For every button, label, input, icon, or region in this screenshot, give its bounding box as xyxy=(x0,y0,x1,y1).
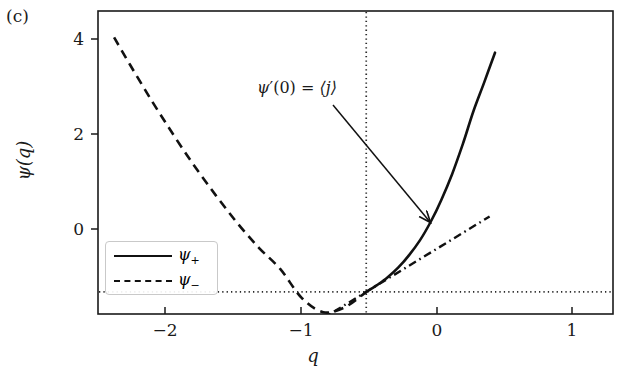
y-axis-label: ψ(q) xyxy=(13,116,34,206)
chart-plot-area xyxy=(0,0,626,374)
ytick-label-0: 0 xyxy=(58,219,84,239)
legend-sample-dashed xyxy=(114,280,172,282)
legend-psi-sub-0: + xyxy=(191,254,200,267)
legend-psi-base-0: ψ xyxy=(178,245,191,264)
figure-panel-c: (c) xyxy=(0,0,626,374)
legend-label-psi-minus: ψ− xyxy=(178,270,200,292)
annotation-expectation: ⟨j⟩ xyxy=(319,78,336,97)
legend-sample-solid xyxy=(114,255,172,257)
legend-entry-psi-plus: ψ+ xyxy=(106,242,219,269)
xtick-label--2: −2 xyxy=(147,320,183,340)
xtick-label-0: 0 xyxy=(419,320,455,340)
curve-psi-plus xyxy=(366,53,495,292)
legend-entry-psi-minus: ψ− xyxy=(106,267,219,294)
ytick-label-4: 4 xyxy=(58,29,84,49)
legend-psi-sub-1: − xyxy=(191,279,200,292)
annotation-text: ψ′(0) = ⟨j⟩ xyxy=(257,78,337,97)
annotation-arrow xyxy=(333,105,430,222)
annotation-arg: (0) xyxy=(273,78,296,97)
xtick-label--1: −1 xyxy=(283,320,319,340)
xtick-label-1: 1 xyxy=(554,320,590,340)
legend: ψ+ ψ− xyxy=(105,241,218,295)
legend-label-psi-plus: ψ+ xyxy=(178,245,200,267)
annotation-equals: = xyxy=(296,78,320,97)
ytick-label-2: 2 xyxy=(58,124,84,144)
legend-psi-base-1: ψ xyxy=(178,270,191,289)
x-axis-label: q xyxy=(0,345,626,366)
annotation-psi: ψ xyxy=(257,78,270,97)
